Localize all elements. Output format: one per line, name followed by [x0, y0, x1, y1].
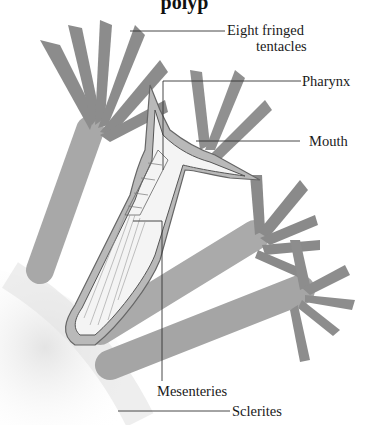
label-tentacles-line1: Eight fringed — [227, 22, 304, 38]
tentacle-crown-3 — [250, 175, 320, 278]
stalk-1 — [40, 130, 90, 270]
label-sclerites: Sclerites — [232, 403, 282, 419]
tentacle-crown-2 — [190, 70, 272, 160]
label-pharynx: Pharynx — [302, 73, 350, 89]
label-mouth: Mouth — [309, 133, 348, 149]
polyp-illustration — [0, 0, 369, 425]
label-tentacles-line2: tentacles — [256, 38, 307, 54]
polyp-diagram: polyp — [0, 0, 369, 425]
label-mesenteries: Mesenteries — [157, 383, 227, 399]
